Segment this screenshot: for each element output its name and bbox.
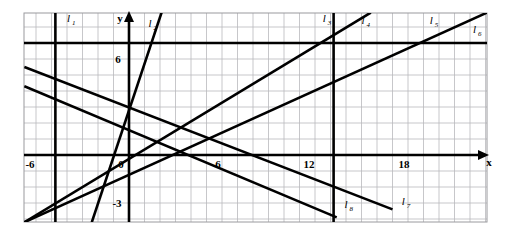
- line-label-subscript-l2: 2: [153, 24, 157, 32]
- x-tick-label-0: 0: [118, 158, 124, 170]
- line-label-text-l1: l: [67, 12, 70, 24]
- line-label-text-l4: l: [362, 14, 365, 26]
- line-label-subscript-l8: 8: [349, 205, 353, 213]
- graph-canvas: xy-60612186-3l1l2l3l4l5l6l7l8: [0, 0, 508, 234]
- x-tick-label--6: -6: [25, 158, 35, 170]
- x-axis-label: x: [486, 156, 492, 168]
- line-label-subscript-l7: 7: [407, 202, 411, 210]
- x-tick-label-12: 12: [304, 158, 316, 170]
- line-label-subscript-l4: 4: [367, 21, 371, 29]
- x-tick-label-18: 18: [399, 158, 411, 170]
- line-label-text-l2: l: [148, 17, 151, 29]
- x-tick-label-6: 6: [215, 158, 221, 170]
- line-label-text-l7: l: [402, 195, 405, 207]
- coordinate-plane-figure: xy-60612186-3l1l2l3l4l5l6l7l8: [0, 0, 508, 234]
- y-axis-label: y: [117, 12, 123, 24]
- line-label-text-l6: l: [473, 23, 476, 35]
- y-tick-label--3: -3: [112, 197, 122, 209]
- line-label-subscript-l1: 1: [72, 19, 76, 27]
- line-label-text-l8: l: [344, 198, 347, 210]
- y-tick-label-6: 6: [115, 53, 121, 65]
- line-label-text-l5: l: [430, 14, 433, 26]
- line-label-text-l3: l: [323, 12, 326, 24]
- line-label-subscript-l5: 5: [435, 21, 439, 29]
- line-label-subscript-l6: 6: [478, 30, 482, 38]
- line-label-subscript-l3: 3: [327, 19, 332, 27]
